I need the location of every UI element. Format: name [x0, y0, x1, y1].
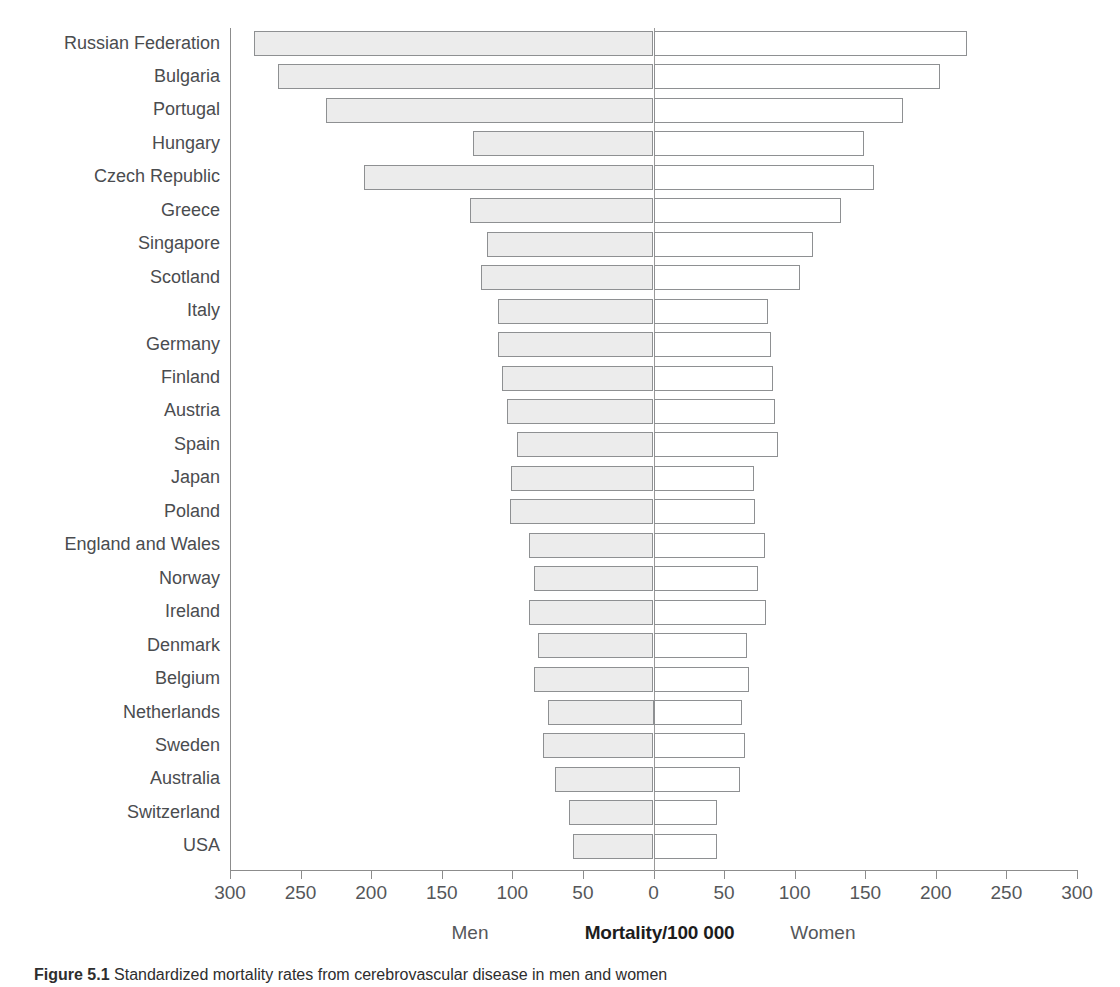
bar-men [555, 767, 654, 792]
bar-men [278, 64, 654, 89]
chart-row: Finland [0, 366, 1120, 391]
figure-caption: Figure 5.1 Standardized mortality rates … [34, 966, 1094, 984]
category-label: Japan [0, 467, 220, 488]
bar-men [473, 131, 654, 156]
bar-women [654, 332, 771, 357]
x-axis-tick-label: 300 [214, 882, 246, 904]
category-label: Switzerland [0, 802, 220, 823]
bar-women [654, 633, 747, 658]
x-axis-tick-label: 50 [714, 882, 735, 904]
category-label: Finland [0, 367, 220, 388]
x-axis-tick [654, 871, 655, 879]
x-axis-tick [512, 871, 513, 879]
x-axis-tick [865, 871, 866, 879]
chart-row: Switzerland [0, 800, 1120, 825]
chart-row: Denmark [0, 633, 1120, 658]
x-axis-tick [936, 871, 937, 879]
figure-number: Figure 5.1 [34, 966, 110, 983]
stroke-mortality-pyramid-chart: 30025020015010050050100150200250300 Russ… [0, 0, 1120, 987]
bar-women [654, 466, 754, 491]
bar-women [654, 733, 746, 758]
bar-men [510, 499, 654, 524]
bar-men [573, 834, 653, 859]
bar-men [534, 667, 654, 692]
bar-men [538, 633, 654, 658]
bar-women [654, 834, 718, 859]
bar-men [511, 466, 654, 491]
chart-row: Sweden [0, 733, 1120, 758]
bar-women [654, 667, 750, 692]
chart-row: Bulgaria [0, 64, 1120, 89]
bar-men [529, 600, 653, 625]
x-axis-tick-label: 300 [1061, 882, 1093, 904]
x-axis-tick-label: 200 [920, 882, 952, 904]
bar-men [529, 533, 653, 558]
x-axis-tick [371, 871, 372, 879]
x-axis-tick [583, 871, 584, 879]
category-label: Austria [0, 400, 220, 421]
bar-women [654, 399, 775, 424]
category-label: Spain [0, 434, 220, 455]
men-group-label: Men [451, 922, 488, 944]
bar-women [654, 499, 756, 524]
category-label: Norway [0, 568, 220, 589]
bar-women [654, 131, 864, 156]
x-axis-tick-label: 250 [285, 882, 317, 904]
x-axis-tick [442, 871, 443, 879]
bar-men [481, 265, 653, 290]
bar-men [254, 31, 654, 56]
category-label: Greece [0, 200, 220, 221]
x-axis-tick [795, 871, 796, 879]
chart-row: USA [0, 834, 1120, 859]
chart-row: Ireland [0, 600, 1120, 625]
bar-men [534, 566, 654, 591]
category-label: Russian Federation [0, 33, 220, 54]
bar-women [654, 31, 967, 56]
bar-women [654, 366, 774, 391]
bar-men [364, 165, 653, 190]
x-axis-tick-label: 200 [355, 882, 387, 904]
x-axis-tick [724, 871, 725, 879]
chart-row: Norway [0, 566, 1120, 591]
chart-row: Germany [0, 332, 1120, 357]
chart-row: Singapore [0, 232, 1120, 257]
category-label: Belgium [0, 668, 220, 689]
figure-caption-text: Standardized mortality rates from cerebr… [114, 966, 667, 983]
bar-women [654, 700, 743, 725]
bar-women [654, 165, 874, 190]
bar-men [498, 299, 653, 324]
x-axis-tick-label: 0 [648, 882, 659, 904]
chart-row: Belgium [0, 667, 1120, 692]
bar-women [654, 767, 740, 792]
x-axis-tick [230, 871, 231, 879]
x-axis-tick-label: 50 [572, 882, 593, 904]
bar-women [654, 800, 718, 825]
category-label: Hungary [0, 133, 220, 154]
chart-row: Italy [0, 299, 1120, 324]
x-axis-tick-label: 150 [849, 882, 881, 904]
chart-row: Japan [0, 466, 1120, 491]
bar-women [654, 432, 778, 457]
category-label: Ireland [0, 601, 220, 622]
bar-men [569, 800, 654, 825]
chart-row: Netherlands [0, 700, 1120, 725]
bar-men [487, 232, 654, 257]
x-axis-tick [1006, 871, 1007, 879]
x-axis-tick [1077, 871, 1078, 879]
bar-men [507, 399, 654, 424]
category-label: Italy [0, 300, 220, 321]
bar-women [654, 98, 904, 123]
bar-women [654, 265, 801, 290]
bar-men [498, 332, 653, 357]
category-label: Scotland [0, 267, 220, 288]
bar-women [654, 198, 842, 223]
chart-row: Czech Republic [0, 165, 1120, 190]
bar-men [543, 733, 653, 758]
category-label: Germany [0, 334, 220, 355]
chart-row: Russian Federation [0, 31, 1120, 56]
bar-women [654, 64, 941, 89]
bar-women [654, 600, 767, 625]
category-label: Portugal [0, 99, 220, 120]
bar-men [470, 198, 654, 223]
category-label: USA [0, 835, 220, 856]
